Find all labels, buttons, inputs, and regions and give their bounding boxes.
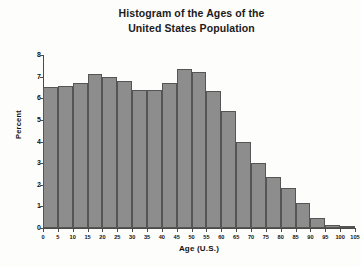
chart-title: Histogram of the Ages of the United Stat… — [0, 6, 361, 36]
x-tick-mark — [206, 228, 207, 232]
x-tick-mark — [132, 228, 133, 232]
x-tick-mark — [177, 228, 178, 232]
plot-area: 0123456780510152025303540455055606570758… — [43, 55, 355, 228]
histogram-bar — [192, 72, 207, 228]
histogram-bar — [340, 226, 355, 228]
chart-title-line-1: Histogram of the Ages of the — [22, 6, 361, 21]
x-tick-mark — [281, 228, 282, 232]
y-axis-label: Percent — [14, 95, 23, 155]
x-tick-label: 105 — [345, 234, 361, 240]
y-tick-label: 7 — [27, 73, 41, 80]
y-tick-label: 8 — [27, 51, 41, 58]
y-tick-label: 4 — [27, 138, 41, 145]
x-tick-mark — [88, 228, 89, 232]
y-tick-label: 6 — [27, 94, 41, 101]
y-tick-mark — [40, 77, 43, 78]
x-tick-mark — [117, 228, 118, 232]
x-tick-mark — [192, 228, 193, 232]
histogram-chart: Histogram of the Ages of the United Stat… — [0, 0, 361, 267]
histogram-bar — [132, 90, 147, 228]
x-tick-mark — [221, 228, 222, 232]
histogram-bar — [281, 188, 296, 228]
y-tick-label: 3 — [27, 159, 41, 166]
histogram-bar — [177, 69, 192, 228]
x-tick-mark — [147, 228, 148, 232]
x-tick-mark — [58, 228, 59, 232]
histogram-bar — [266, 177, 281, 228]
x-tick-mark — [162, 228, 163, 232]
chart-title-line-2: United States Population — [22, 21, 361, 36]
x-axis-label: Age (U.S.) — [43, 244, 355, 253]
x-tick-mark — [355, 228, 356, 232]
histogram-bar — [43, 87, 58, 228]
y-tick-label: 2 — [27, 181, 41, 188]
histogram-bar — [251, 163, 266, 228]
x-tick-mark — [340, 228, 341, 232]
x-tick-mark — [325, 228, 326, 232]
x-axis-line — [43, 228, 356, 229]
histogram-bar — [221, 111, 236, 228]
x-tick-mark — [43, 228, 44, 232]
x-tick-mark — [251, 228, 252, 232]
histogram-bar — [162, 83, 177, 228]
y-tick-label: 5 — [27, 116, 41, 123]
histogram-bar — [206, 91, 221, 228]
y-tick-label: 0 — [27, 224, 41, 231]
x-tick-mark — [266, 228, 267, 232]
histogram-bar — [325, 225, 340, 228]
x-tick-mark — [236, 228, 237, 232]
histogram-bar — [310, 218, 325, 228]
x-tick-mark — [296, 228, 297, 232]
y-tick-label: 1 — [27, 202, 41, 209]
histogram-bar — [117, 81, 132, 228]
histogram-bar — [236, 142, 251, 229]
histogram-bar — [296, 203, 311, 228]
histogram-bar — [58, 86, 73, 228]
histogram-bar — [102, 77, 117, 228]
histogram-bar — [88, 74, 103, 228]
y-tick-mark — [40, 55, 43, 56]
x-tick-mark — [310, 228, 311, 232]
x-tick-mark — [73, 228, 74, 232]
histogram-bar — [73, 83, 88, 228]
x-tick-mark — [102, 228, 103, 232]
histogram-bar — [147, 90, 162, 228]
